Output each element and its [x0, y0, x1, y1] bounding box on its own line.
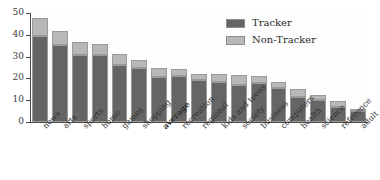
- bar-segment-tracker: [72, 55, 88, 122]
- legend-label-tracker: Tracker: [252, 18, 292, 28]
- bar-segment-non-tracker: [112, 54, 128, 65]
- bar-column: [52, 31, 68, 122]
- bar-segment-non-tracker: [52, 31, 68, 45]
- bar-column: [32, 18, 48, 122]
- bar-segment-non-tracker: [131, 60, 147, 69]
- bar-segment-non-tracker: [251, 76, 267, 83]
- y-tick-mark: [26, 122, 31, 123]
- y-tick-label: 40: [0, 30, 24, 39]
- bar-segment-non-tracker: [271, 82, 287, 88]
- y-tick-label: 30: [0, 52, 24, 61]
- bar-segment-tracker: [32, 36, 48, 122]
- bar-segment-non-tracker: [171, 69, 187, 76]
- bar-segment-non-tracker: [211, 74, 227, 82]
- bar-segment-non-tracker: [231, 75, 247, 85]
- chart-legend: Tracker Non-Tracker: [226, 16, 316, 50]
- bar-segment-non-tracker: [32, 18, 48, 36]
- legend-swatch-tracker: [226, 19, 245, 28]
- y-tick-label: 10: [0, 95, 24, 104]
- bar-segment-non-tracker: [191, 74, 207, 80]
- legend-swatch-non-tracker: [226, 36, 245, 45]
- legend-item-non-tracker: Non-Tracker: [226, 33, 316, 47]
- bar-segment-non-tracker: [290, 89, 306, 97]
- legend-item-tracker: Tracker: [226, 16, 316, 30]
- legend-label-non-tracker: Non-Tracker: [252, 35, 316, 45]
- y-tick-label: 20: [0, 73, 24, 82]
- bar-segment-non-tracker: [72, 42, 88, 55]
- bar-segment-non-tracker: [151, 68, 167, 77]
- y-tick-label: 50: [0, 8, 24, 17]
- y-tick-label: 0: [0, 117, 24, 126]
- bar-column: [72, 42, 88, 122]
- bar-segment-non-tracker: [92, 44, 108, 55]
